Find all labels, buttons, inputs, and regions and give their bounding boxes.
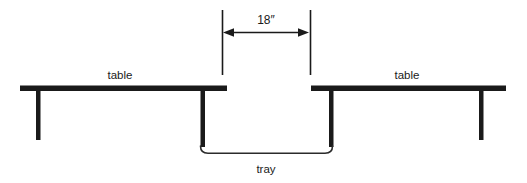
right-table-top <box>311 86 506 92</box>
dimension-arrow <box>223 28 309 37</box>
dimension-label: 18″ <box>257 13 275 27</box>
left-table: table <box>20 69 227 147</box>
right-table: table <box>311 69 506 147</box>
left-table-top <box>20 86 227 92</box>
tray-brace <box>201 146 333 153</box>
arrowhead-right-icon <box>298 28 309 37</box>
right-table-inner-leg <box>329 91 334 147</box>
right-table-outer-leg <box>479 91 484 140</box>
tray-clearance-diagram: 18″ table table tray <box>0 0 527 183</box>
right-table-label: table <box>395 69 420 81</box>
tray-label: tray <box>256 163 275 175</box>
diagram-canvas: 18″ table table tray <box>0 0 527 183</box>
arrowhead-left-icon <box>223 28 234 37</box>
left-table-label: table <box>108 69 133 81</box>
left-table-inner-leg <box>201 91 206 147</box>
left-table-outer-leg <box>36 91 41 140</box>
